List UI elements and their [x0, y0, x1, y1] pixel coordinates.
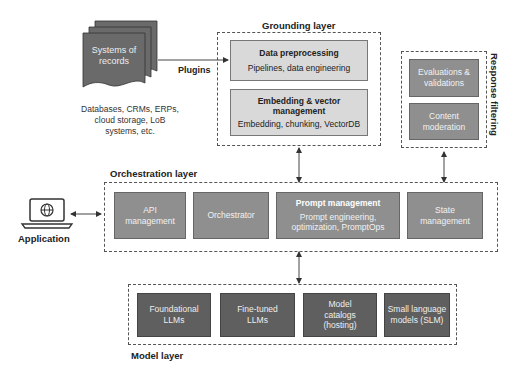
- box-label: Fine-tuned LLMs: [230, 304, 285, 325]
- laptop-icon: [22, 199, 72, 228]
- systems-of-records-note: Databases, CRMs, ERPs, cloud storage, Lo…: [75, 104, 185, 137]
- response-filtering-title: Response filtering: [489, 53, 500, 136]
- box-label: Orchestrator: [207, 210, 254, 221]
- box-label: Content moderation: [419, 111, 469, 132]
- box-subtitle: Pipelines, data engineering: [248, 63, 351, 74]
- box-label: API management: [120, 205, 180, 226]
- orchestration-layer-title: Orchestration layer: [110, 168, 197, 179]
- note-line: Databases, CRMs, ERPs,: [75, 104, 185, 115]
- evaluations-validations-box: Evaluations & validations: [409, 59, 479, 97]
- embedding-vector-management-box: Embedding & vector management Embedding,…: [230, 89, 368, 136]
- data-preprocessing-box: Data preprocessing Pipelines, data engin…: [230, 40, 368, 81]
- note-line: systems, etc.: [75, 126, 185, 137]
- box-subtitle: Prompt engineering, optimization, Prompt…: [288, 212, 388, 233]
- box-label: Evaluations & validations: [414, 67, 474, 88]
- box-subtitle: Embedding, chunking, VectorDB: [238, 119, 360, 130]
- foundational-llms-box: Foundational LLMs: [137, 293, 211, 337]
- box-label: Small language models (SLM): [386, 304, 448, 325]
- prompt-management-box: Prompt management Prompt engineering, op…: [276, 192, 400, 239]
- state-management-box: State management: [407, 192, 483, 239]
- box-label: State management: [415, 205, 475, 226]
- api-management-box: API management: [114, 192, 186, 239]
- systems-of-records-label: Systems of records: [83, 45, 145, 68]
- box-title: Data preprocessing: [259, 48, 338, 59]
- orchestrator-box: Orchestrator: [193, 192, 269, 239]
- model-layer-title: Model layer: [131, 350, 183, 361]
- box-title: Embedding & vector management: [254, 96, 344, 117]
- fine-tuned-llms-box: Fine-tuned LLMs: [220, 293, 295, 337]
- box-label: Foundational LLMs: [142, 304, 206, 325]
- model-catalogs-box: Model catalogs (hosting): [303, 293, 377, 337]
- box-label: Model catalogs (hosting): [315, 299, 365, 331]
- note-line: cloud storage, LoB: [75, 115, 185, 126]
- small-language-models-box: Small language models (SLM): [384, 293, 450, 337]
- grounding-layer-title: Grounding layer: [262, 20, 335, 31]
- content-moderation-box: Content moderation: [409, 103, 479, 140]
- box-title: Prompt management: [296, 198, 381, 209]
- application-label: Application: [18, 233, 70, 244]
- plugins-label: Plugins: [178, 65, 211, 75]
